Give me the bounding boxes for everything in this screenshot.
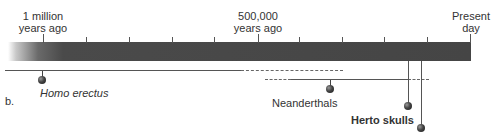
tick-900000 [86,37,87,43]
herto-line-1 [408,61,409,103]
label-500000-years-ago: 500,000 years ago [223,10,293,34]
neanderthals-label: Neanderthals [272,97,337,109]
label-line: years ago [8,22,78,34]
homo-erectus-range-solid [5,70,241,71]
neanderthal-range-dashed-start [265,79,291,80]
neanderthal-range-dashed-end [408,79,429,80]
tick-present [470,34,471,43]
tick-500000 [258,34,259,43]
homo-erectus-range-dashed [241,70,343,71]
label-present-day: Present day [441,10,492,34]
neanderthal-range-solid [291,79,408,80]
timeline-bar [8,42,471,61]
herto-skulls-label: Herto skulls [351,114,414,126]
tick-600000 [214,37,215,43]
herto-marker-2 [417,124,425,132]
label-line: years ago [223,22,293,34]
tick-1000000 [43,34,44,43]
homo-erectus-label: Homo erectus [40,87,108,99]
homo-erectus-marker [38,76,46,84]
neanderthal-marker [326,85,334,93]
tick-400000 [299,37,300,43]
tick-700000 [172,37,173,43]
herto-marker-1 [404,102,412,110]
herto-line-2 [421,61,422,126]
label-1-million-years-ago: 1 million years ago [8,10,78,34]
tick-300000 [342,37,343,43]
tick-800000 [129,37,130,43]
panel-label: b. [5,95,14,107]
label-line: Present [441,10,492,22]
tick-200000 [384,37,385,43]
label-line: 1 million [8,10,78,22]
tick-100000 [427,37,428,43]
label-line: 500,000 [223,10,293,22]
label-line: day [441,22,492,34]
